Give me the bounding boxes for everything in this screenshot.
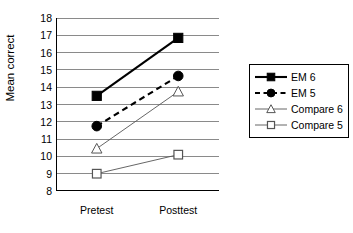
legend-item: Compare 6 [254,101,343,117]
legend-item: Compare 5 [254,117,343,133]
series-line [97,76,179,126]
marker-open-triangle [173,86,183,96]
legend-label: Compare 6 [288,103,343,115]
legend-symbol [254,86,288,100]
marker-open-square [92,169,101,178]
y-tick-label: 17 [40,30,52,41]
line-chart: Mean correct 89101112131415161718 Pretes… [0,0,353,233]
y-axis-title: Mean correct [4,14,16,122]
y-tick-label: 9 [46,168,52,179]
gridlines [56,18,219,174]
y-tick-label: 12 [40,116,52,127]
marker-open-triangle [92,143,102,153]
marker-filled-circle [173,71,183,81]
y-tick-label: 18 [40,13,52,24]
y-tick-label: 16 [40,47,52,58]
marker-filled-circle [92,121,102,131]
marker-filled-square [267,73,275,81]
x-tick-label: Pretest [80,204,113,216]
y-tick-label: 13 [40,99,52,110]
legend-symbol [254,70,288,84]
marker-filled-square [174,33,183,42]
series-em-6 [92,33,183,100]
marker-open-square [267,121,274,128]
plot-area [56,18,219,191]
x-tick-label: Posttest [159,204,197,216]
marker-filled-square [92,91,101,100]
legend-label: EM 6 [288,71,316,83]
marker-open-square [174,150,183,159]
x-axis-tick-labels: PretestPosttest [56,204,219,220]
y-tick-label: 15 [40,64,52,75]
legend-item: EM 5 [254,85,343,101]
series-line [97,92,179,149]
marker-filled-circle [267,89,275,97]
y-axis-tick-labels: 89101112131415161718 [30,18,52,191]
chart-legend: EM 6EM 5Compare 6Compare 5 [249,64,349,138]
plot-svg [56,18,219,191]
series-line [97,155,179,174]
legend-symbol [254,102,288,116]
y-tick-label: 8 [46,186,52,197]
y-tick-label: 10 [40,151,52,162]
legend-item: EM 6 [254,69,343,85]
legend-symbol [254,118,288,132]
legend-label: EM 5 [288,87,316,99]
y-tick-label: 11 [41,134,52,145]
y-tick-label: 14 [40,82,52,93]
legend-label: Compare 5 [288,119,343,131]
